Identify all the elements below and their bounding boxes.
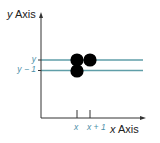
y-axis-word: Axis bbox=[15, 8, 36, 20]
y-tick-label-y: y bbox=[32, 55, 36, 64]
x-tick-label-x: x bbox=[74, 123, 78, 132]
x-axis-var: x bbox=[110, 123, 116, 135]
y-tick-label-y-minus-1: y − 1 bbox=[17, 65, 36, 74]
y-axis-arrow-icon bbox=[39, 12, 43, 18]
y-axis-var: y bbox=[7, 8, 13, 20]
x-axis-arrow-icon bbox=[140, 116, 146, 120]
point-x-y-minus-1 bbox=[70, 64, 83, 77]
point-x1-y bbox=[83, 53, 96, 66]
x-axis-title: x Axis bbox=[110, 124, 139, 135]
y-axis-title: y Axis bbox=[7, 9, 36, 20]
x-tick-label-x-plus-1: x + 1 bbox=[87, 123, 106, 132]
x-axis-word: Axis bbox=[118, 123, 139, 135]
